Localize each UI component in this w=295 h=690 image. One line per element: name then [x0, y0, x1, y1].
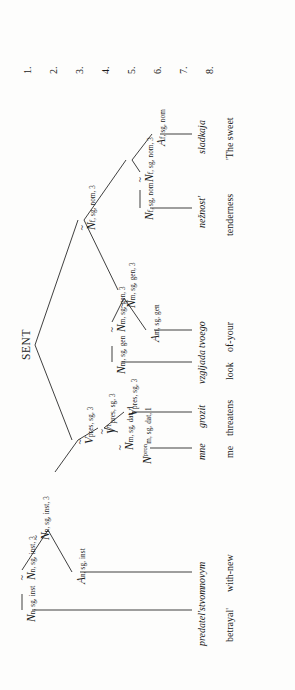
edge-sent-upper: [35, 345, 72, 440]
node-features: m, sg, dat, 1: [127, 406, 135, 442]
node-features: m, sg, dat, 1: [145, 407, 153, 443]
node-features: pres, sg, 3: [131, 379, 139, 409]
edge-v-to-ninst: [55, 440, 78, 472]
node-n-inst-plain: Nn, sg, inst: [26, 586, 38, 622]
tree-edges: [0, 0, 295, 690]
node-features: m, sg, gen, 3: [129, 262, 137, 300]
row-number-5: 5.: [126, 67, 137, 75]
row-number-3: 3.: [74, 67, 85, 75]
row-number-7: 7.: [178, 67, 189, 75]
node-v-tilde-sup1: V1pres, sg, 3: [106, 393, 118, 434]
edge-sent-lower: [35, 220, 78, 345]
node-features: pres, sg, 3: [87, 407, 95, 437]
node-n-gen-plain: Nm, sg, gen: [116, 336, 128, 374]
node-n-gen-tilde: Nm, sg, gen, 3: [116, 286, 128, 332]
node-n-dat-tilde: Nm, sg, dat, 1: [124, 406, 136, 450]
sent-root-label: SENT: [20, 329, 32, 360]
node-features: m, sg, gen: [119, 336, 127, 367]
node-category: N: [39, 532, 51, 540]
word-neznost: nežnost': [196, 196, 207, 228]
edge-ninst-to-a: [48, 530, 72, 572]
node-a-inst: An, sg, inst: [76, 548, 88, 584]
gloss-novym: with-new: [224, 554, 235, 592]
node-category: A: [155, 139, 167, 146]
node-n-root-inst: Nn, sg, inst, 3: [40, 496, 52, 540]
gloss-mne: me: [224, 446, 235, 458]
node-category: A: [75, 577, 87, 584]
node-superscript: pron: [141, 444, 148, 457]
word-grozit: grozit: [196, 405, 207, 428]
figure-stage: SENT Nn, sg, inst, 3 Vpres, sg, 3 V1pres…: [0, 0, 295, 690]
node-n-pron-dat: Npronm, sg, dat, 1: [142, 407, 154, 464]
gloss-tvoego: of-your: [224, 322, 235, 352]
word-mne: mne: [196, 443, 207, 460]
tree-canvas: SENT Nn, sg, inst, 3 Vpres, sg, 3 V1pres…: [0, 0, 295, 690]
node-features: m, sg, gen, 3: [119, 286, 127, 324]
node-category: N: [115, 324, 127, 332]
node-a-nom: Af, sg, nom: [156, 109, 168, 146]
word-vzgljada: vzgljada: [196, 350, 207, 384]
node-n-nom-tilde2: Nf, sg, nom, 3: [144, 137, 156, 182]
edge-nnom-to-ngen: [84, 220, 118, 290]
edge-nnom2-to-n3: [132, 160, 140, 172]
node-v-tilde-1: Vpres, sg, 3: [84, 407, 96, 444]
gloss-grozit: threatens: [224, 400, 235, 436]
row-number-8: 8.: [204, 67, 215, 75]
node-n-nom-plain: Nf, sg, nom: [144, 182, 156, 220]
node-n-gen-tilde-hi: Nm, sg, gen, 3: [126, 262, 138, 308]
row-number-2: 2.: [48, 67, 59, 75]
row-number-4: 4.: [100, 67, 111, 75]
gloss-predatelstvom: betrayal': [224, 608, 235, 642]
row-number-6: 6.: [152, 67, 163, 75]
word-tvoego: tvoego: [196, 321, 207, 348]
node-n-nom-tilde-hi: Nf, sg, nom, 3: [86, 185, 98, 230]
word-predatelstvom: predatel'stvom: [196, 588, 207, 646]
node-category: N: [123, 442, 135, 450]
word-sladkaja: sladkaja: [196, 120, 207, 154]
node-category: N: [115, 366, 127, 374]
node-features: f, sg, nom, 3: [89, 185, 97, 222]
gloss-vzgljada: look: [224, 362, 235, 380]
node-features: pres, sg, 3: [109, 393, 117, 423]
node-features: f, sg, nom: [159, 109, 167, 139]
word-novym: novym: [196, 562, 207, 588]
node-category: N: [25, 614, 37, 622]
node-features: n, sg, inst: [29, 586, 37, 615]
node-features: m, sg, gen: [153, 304, 161, 335]
node-features: f, sg, nom, 3: [147, 137, 155, 174]
node-category: N: [141, 456, 153, 464]
node-category: V: [105, 427, 117, 434]
node-features: n, sg, inst, 3: [29, 536, 37, 572]
row-number-1: 1.: [22, 67, 33, 75]
gloss-neznost: tenderness: [224, 194, 235, 236]
node-category: A: [149, 335, 161, 342]
gloss-sladkaja: 'The sweet: [224, 117, 235, 160]
node-category: N: [85, 222, 97, 230]
node-n-inst-tilde: Nn, sg, inst, 3: [26, 536, 38, 580]
node-a-gen: Am, sg, gen: [150, 304, 162, 342]
node-category: N: [25, 572, 37, 580]
node-features: n, sg, inst, 3: [43, 496, 51, 532]
node-category: N: [143, 174, 155, 182]
node-features: n, sg, inst: [79, 548, 87, 577]
node-features: f, sg, nom: [147, 182, 155, 212]
node-category: V: [83, 437, 95, 444]
node-category: N: [143, 212, 155, 220]
